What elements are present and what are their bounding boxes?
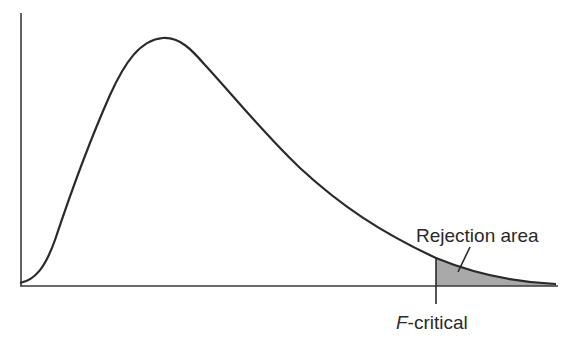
rejection-area-label: Rejection area <box>416 225 539 246</box>
density-curve <box>20 38 556 284</box>
f-critical-label: F-critical <box>396 312 468 333</box>
f-distribution-diagram: Rejection area F-critical <box>0 0 573 347</box>
